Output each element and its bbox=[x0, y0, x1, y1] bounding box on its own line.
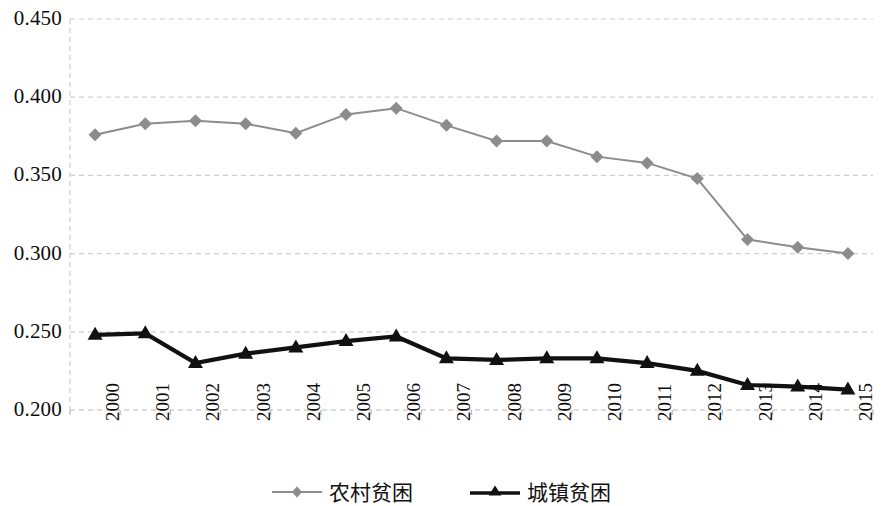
x-axis-tick-2006: 2006 bbox=[404, 383, 423, 421]
x-axis-tick-2010: 2010 bbox=[605, 383, 624, 421]
data-point-marker bbox=[590, 150, 603, 163]
legend-label-urban: 城镇贫困 bbox=[527, 482, 611, 503]
diamond-marker-icon bbox=[271, 483, 323, 501]
x-axis-tick-2003: 2003 bbox=[254, 383, 273, 421]
data-point-marker bbox=[340, 108, 353, 121]
x-axis-tick-2013: 2013 bbox=[756, 383, 775, 421]
y-axis-tick-0.350: 0.350 bbox=[0, 164, 62, 185]
legend-label-rural: 农村贫困 bbox=[329, 482, 413, 503]
data-point-marker bbox=[239, 117, 252, 130]
series-line bbox=[95, 108, 848, 253]
y-axis-tick-0.200: 0.200 bbox=[0, 399, 62, 420]
series-rural bbox=[89, 102, 855, 260]
x-axis-tick-2002: 2002 bbox=[203, 383, 222, 421]
data-point-marker bbox=[289, 127, 302, 140]
x-axis-tick-2014: 2014 bbox=[806, 383, 825, 421]
data-point-marker bbox=[841, 247, 854, 260]
x-axis-tick-2004: 2004 bbox=[304, 383, 323, 421]
series-line bbox=[95, 333, 848, 389]
line-chart: 0.4500.4000.3500.3000.2500.200 200020012… bbox=[0, 0, 882, 506]
x-axis-tick-2007: 2007 bbox=[454, 383, 473, 421]
legend-item-rural[interactable]: 农村贫困 bbox=[271, 482, 413, 503]
x-axis-tick-2000: 2000 bbox=[103, 383, 122, 421]
legend-item-urban[interactable]: 城镇贫困 bbox=[469, 482, 611, 503]
x-axis-tick-2011: 2011 bbox=[655, 384, 674, 421]
y-axis-tick-0.450: 0.450 bbox=[0, 8, 62, 29]
data-point-marker bbox=[89, 128, 102, 141]
x-axis-tick-2005: 2005 bbox=[354, 383, 373, 421]
data-point-marker bbox=[540, 134, 553, 147]
chart-legend: 农村贫困 城镇贫困 bbox=[0, 478, 882, 506]
data-point-marker bbox=[189, 114, 202, 127]
y-axis-tick-0.300: 0.300 bbox=[0, 243, 62, 264]
data-point-marker bbox=[440, 119, 453, 132]
x-axis-tick-2008: 2008 bbox=[505, 383, 524, 421]
data-point-marker bbox=[139, 117, 152, 130]
data-point-marker bbox=[390, 102, 403, 115]
plot-area bbox=[0, 0, 882, 506]
x-axis-tick-2015: 2015 bbox=[856, 383, 875, 421]
x-axis-tick-2012: 2012 bbox=[705, 383, 724, 421]
y-axis-tick-0.250: 0.250 bbox=[0, 321, 62, 342]
x-axis-tick-2009: 2009 bbox=[555, 383, 574, 421]
data-point-marker bbox=[490, 134, 503, 147]
triangle-marker-icon bbox=[469, 483, 521, 501]
data-point-marker bbox=[791, 241, 804, 254]
data-point-marker bbox=[641, 156, 654, 169]
x-axis-tick-2001: 2001 bbox=[153, 383, 172, 421]
y-axis-tick-0.400: 0.400 bbox=[0, 86, 62, 107]
